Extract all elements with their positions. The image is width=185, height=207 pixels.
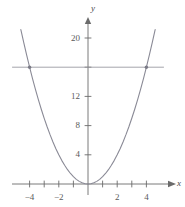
x-tick-label-minus-4: −4 bbox=[21, 193, 39, 202]
x-tick-label-4: 4 bbox=[137, 193, 155, 202]
cartesian-plot-svg bbox=[0, 0, 185, 207]
y-tick-label-20: 20 bbox=[62, 34, 80, 43]
intersection-point-marker bbox=[145, 66, 148, 69]
graph-figure: 20 12 8 4 −4 −2 2 4 y x bbox=[0, 0, 185, 207]
x-tick-label-minus-2: −2 bbox=[50, 193, 68, 202]
y-tick-label-8: 8 bbox=[62, 121, 80, 130]
intersection-point-marker bbox=[28, 66, 31, 69]
x-axis-arrowhead bbox=[168, 181, 176, 187]
y-axis-arrowhead bbox=[85, 17, 91, 24]
y-axis-label: y bbox=[91, 4, 95, 13]
y-tick-label-12: 12 bbox=[62, 92, 80, 101]
x-axis-label: x bbox=[177, 179, 181, 188]
x-tick-label-2: 2 bbox=[108, 193, 126, 202]
y-tick-label-4: 4 bbox=[62, 150, 80, 159]
